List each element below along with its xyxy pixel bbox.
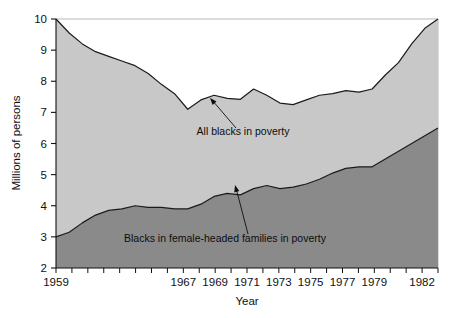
y-tick-label: 3 (41, 231, 47, 243)
x-tick-label: 1967 (171, 276, 197, 288)
x-axis-title: Year (235, 295, 258, 307)
y-tick-label: 7 (41, 106, 47, 118)
x-tick-label: 1975 (298, 276, 324, 288)
x-tick-label: 1959 (43, 276, 69, 288)
x-tick-label: 1973 (266, 276, 292, 288)
x-axis-ticks (56, 268, 438, 273)
x-axis-tick-labels: 195919671969197119731975197719791982 (43, 276, 435, 288)
x-tick-label: 1971 (234, 276, 260, 288)
y-tick-label: 9 (41, 44, 47, 56)
y-axis-tick-labels: 2345678910 (34, 13, 47, 274)
y-tick-label: 8 (41, 75, 47, 87)
x-tick-label: 1977 (330, 276, 356, 288)
y-tick-label: 10 (34, 13, 47, 25)
y-tick-label: 2 (41, 262, 47, 274)
annotation-label: Blacks in female-headed families in pove… (124, 232, 327, 244)
y-tick-label: 6 (41, 138, 47, 150)
y-tick-label: 4 (41, 200, 48, 212)
x-tick-label: 1969 (202, 276, 228, 288)
x-tick-label: 1979 (362, 276, 388, 288)
x-tick-label: 1982 (409, 276, 435, 288)
poverty-area-chart: 2345678910 19591967196919711973197519771… (0, 0, 457, 318)
y-axis-title: Millions of persons (10, 95, 22, 190)
y-tick-label: 5 (41, 169, 47, 181)
chart-canvas: 2345678910 19591967196919711973197519771… (0, 0, 457, 318)
annotation-label: All blacks in poverty (197, 125, 291, 137)
y-axis-ticks (51, 19, 56, 268)
